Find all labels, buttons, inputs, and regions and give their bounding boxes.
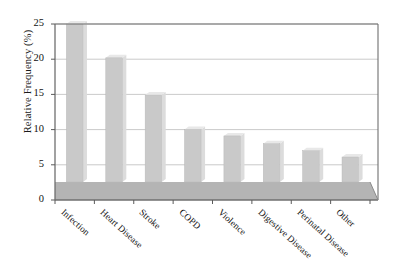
y-tick-label: 0: [18, 193, 44, 204]
bar-chart-figure: [0, 0, 399, 277]
chart-floor-3d: [55, 182, 378, 200]
y-axis-title: Relative Frequency (%): [22, 0, 33, 167]
plot-background: [55, 24, 378, 200]
